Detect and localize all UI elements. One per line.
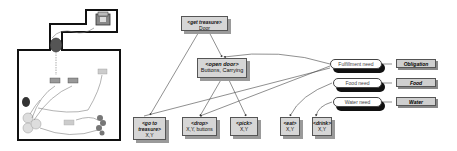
node-param: Buttons, Carrying (201, 67, 244, 73)
node-param: X,Y (318, 126, 326, 132)
node-title: <go to treasure> (134, 120, 165, 132)
node-go-to-treasure: <go to treasure> X,Y (133, 117, 166, 140)
node-param: X,Y, buttons (186, 126, 213, 132)
resource-food: Food (396, 78, 436, 87)
node-eat: <eat> X,Y (280, 117, 300, 136)
node-param: X,Y (240, 126, 248, 132)
need-food: Food need (333, 78, 382, 88)
node-drop: <drop> X,Y, buttons (182, 117, 217, 136)
node-get-treasure: <get treasure> Door (181, 16, 228, 31)
need-water: Water need (333, 97, 382, 107)
node-param: X,Y (286, 126, 294, 132)
resource-water: Water (396, 97, 436, 106)
node-pick: <pick> X,Y (230, 117, 258, 136)
node-open-door: <open door> Buttons, Carrying (197, 58, 247, 78)
node-param: X,Y (145, 132, 153, 138)
node-param: Door (199, 25, 210, 31)
node-drink: <drink> X,Y (312, 117, 332, 136)
need-fulfillment: Fulfillment need (330, 59, 382, 69)
resource-obligation: Obligation (396, 59, 436, 68)
